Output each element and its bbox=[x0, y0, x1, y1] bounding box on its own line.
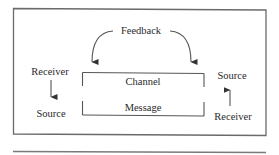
feedback-arrow-right bbox=[170, 31, 191, 62]
right-receiver-label: Receiver bbox=[214, 111, 252, 122]
feedback-label: Feedback bbox=[121, 25, 162, 36]
communication-diagram: Feedback Channel Message Receiver Source… bbox=[0, 0, 279, 155]
left-receiver-label: Receiver bbox=[31, 66, 69, 77]
feedback-arrow-left bbox=[92, 31, 113, 62]
channel-label: Channel bbox=[126, 76, 161, 87]
message-label: Message bbox=[125, 102, 162, 113]
left-source-label: Source bbox=[36, 108, 65, 119]
channel-box-bottom bbox=[83, 115, 205, 116]
channel-box-top bbox=[83, 73, 205, 74]
bottom-rule bbox=[13, 152, 266, 153]
right-source-label: Source bbox=[217, 70, 246, 81]
